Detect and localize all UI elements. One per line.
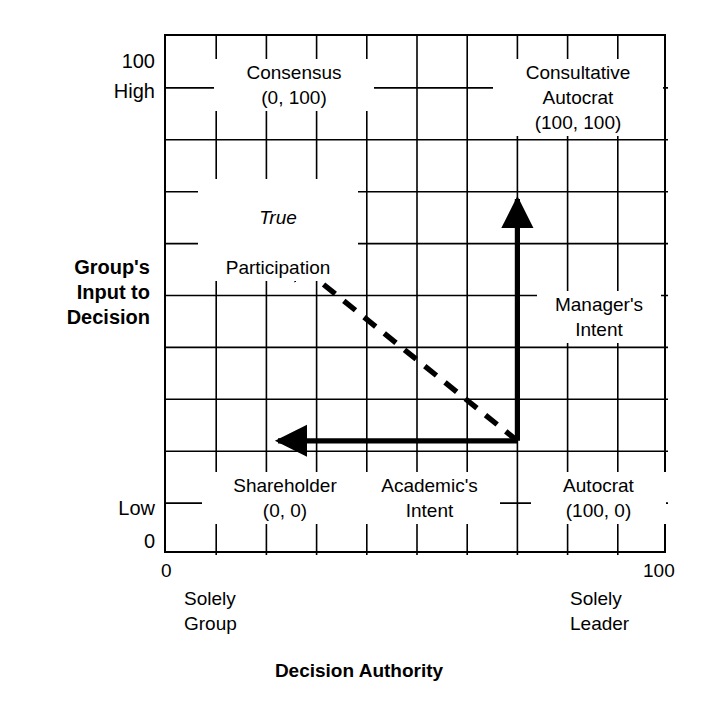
label-academics-intent: Academic's Intent: [359, 472, 500, 524]
label-true-word: True: [259, 207, 297, 228]
label-true-participation: True Participation: [198, 179, 358, 281]
x-axis-right-word: Solely Leader: [570, 586, 629, 636]
label-consultative-autocrat: Consultative Autocrat (100, 100): [493, 59, 663, 136]
x-axis-left-value: 0: [161, 560, 172, 582]
chart-canvas: 100 High Low 0 Group's Input to Decision…: [0, 0, 718, 705]
y-axis-title: Group's Input to Decision: [0, 255, 150, 330]
y-axis-top-word: High: [40, 78, 155, 104]
label-participation-word: Participation: [226, 257, 331, 278]
label-managers-intent: Manager's Intent: [537, 291, 661, 343]
label-consensus: Consensus (0, 100): [214, 59, 374, 111]
y-axis-bottom-value: 0: [40, 528, 155, 554]
y-axis-top-value: 100: [40, 48, 155, 74]
label-shareholder: Shareholder (0, 0): [202, 472, 368, 524]
label-autocrat: Autocrat (100, 0): [531, 472, 666, 524]
x-axis-title: Decision Authority: [0, 660, 718, 682]
y-axis-bottom-word: Low: [40, 495, 155, 521]
x-axis-right-value: 100: [643, 560, 675, 582]
x-axis-left-word: Solely Group: [184, 586, 237, 636]
plot-area: Consensus (0, 100) Consultative Autocrat…: [164, 34, 666, 553]
